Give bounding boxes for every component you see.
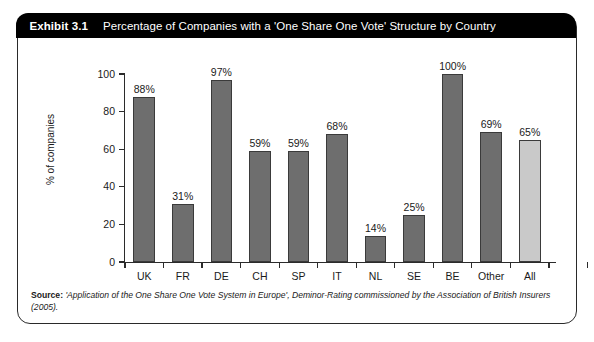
x-tick xyxy=(240,262,241,268)
y-tick-label-wrap: 60 xyxy=(78,144,115,154)
bar-value-se: 25% xyxy=(395,202,434,213)
y-tick-label-wrap: 40 xyxy=(78,181,115,191)
bar-other xyxy=(480,132,502,262)
bar-value-de: 97% xyxy=(202,67,241,78)
x-tick xyxy=(201,262,202,268)
y-tick-label: 40 xyxy=(81,181,115,191)
x-tick xyxy=(510,262,511,268)
y-axis-label: % of companies xyxy=(45,90,56,210)
x-tick xyxy=(163,262,164,268)
bar-value-it: 68% xyxy=(318,121,357,132)
x-tick xyxy=(279,262,280,268)
source-label: Source: xyxy=(31,290,63,300)
y-tick-label-wrap: 20 xyxy=(78,219,115,229)
bar-be xyxy=(442,74,464,262)
x-tick xyxy=(317,262,318,268)
bar-it xyxy=(326,134,348,262)
y-tick-label-wrap: 80 xyxy=(78,106,115,116)
plot-area xyxy=(125,74,549,262)
bar-value-uk: 88% xyxy=(125,84,164,95)
bar-value-sp: 59% xyxy=(279,138,318,149)
source-note: Source: 'Application of the One Share On… xyxy=(31,289,564,314)
x-tick xyxy=(433,262,434,268)
bar-value-be: 100% xyxy=(433,61,472,72)
x-tick xyxy=(471,262,472,268)
x-category-label-sp: SP xyxy=(279,271,318,282)
exhibit-header: Exhibit 3.1 Percentage of Companies with… xyxy=(16,13,576,38)
x-tick xyxy=(356,262,357,268)
x-category-label-uk: UK xyxy=(125,271,164,282)
chart-canvas: % of companies 020406080100 88%UK31%FR97… xyxy=(18,40,575,293)
bar-value-all: 65% xyxy=(510,127,549,138)
bar-de xyxy=(211,80,233,262)
exhibit-number: Exhibit 3.1 xyxy=(29,20,88,32)
bar-value-fr: 31% xyxy=(164,191,203,202)
x-category-label-se: SE xyxy=(395,271,434,282)
source-text: 'Application of the One Share One Vote S… xyxy=(31,290,550,312)
y-tick-label: 100 xyxy=(81,69,115,79)
bar-ch xyxy=(249,151,271,262)
y-tick-label: 20 xyxy=(81,219,115,229)
x-category-label-it: IT xyxy=(318,271,357,282)
bar-uk xyxy=(133,97,155,262)
y-tick-label: 0 xyxy=(81,257,115,267)
x-category-label-fr: FR xyxy=(164,271,203,282)
bar-value-ch: 59% xyxy=(241,138,280,149)
y-tick-label: 60 xyxy=(81,144,115,154)
bar-all xyxy=(519,140,541,262)
bar-value-nl: 14% xyxy=(356,223,395,234)
bar-fr xyxy=(172,204,194,262)
y-tick-label-wrap: 0 xyxy=(78,257,115,267)
x-category-label-all: All xyxy=(510,271,549,282)
y-tick-label: 80 xyxy=(81,106,115,116)
x-tick xyxy=(587,262,588,268)
x-category-label-other: Other xyxy=(472,271,511,282)
x-tick xyxy=(394,262,395,268)
exhibit-title: Percentage of Companies with a 'One Shar… xyxy=(103,20,496,32)
x-tick xyxy=(124,262,125,268)
exhibit-card: Exhibit 3.1 Percentage of Companies with… xyxy=(17,14,577,324)
bar-se xyxy=(403,215,425,262)
bar-sp xyxy=(288,151,310,262)
x-category-label-be: BE xyxy=(433,271,472,282)
bar-value-other: 69% xyxy=(472,119,511,130)
x-category-label-ch: CH xyxy=(241,271,280,282)
y-tick-label-wrap: 100 xyxy=(78,69,115,79)
bar-nl xyxy=(365,236,387,262)
x-category-label-de: DE xyxy=(202,271,241,282)
x-category-label-nl: NL xyxy=(356,271,395,282)
x-tick xyxy=(548,262,549,268)
